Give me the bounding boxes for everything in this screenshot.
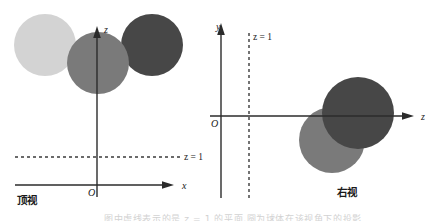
panel-right-view: y z O z = 1 右视 xyxy=(210,21,425,199)
panel-top-view: z x O z = 1 顶视 xyxy=(14,14,203,206)
top-view-caption: 顶视 xyxy=(17,194,38,206)
right-view-dark-circle xyxy=(322,77,394,149)
right-view-origin-label: O xyxy=(211,118,218,129)
footer-cropped-caption-text: 图中虚线表示的是 z = 1 的平面,圆为球体在该视角下的投影 xyxy=(104,213,362,221)
top-view-dark-circle xyxy=(121,14,183,76)
right-view-z-axis-label: z xyxy=(420,111,425,122)
top-view-x-axis-arrow xyxy=(162,181,174,189)
top-view-origin-label: O xyxy=(88,187,95,198)
figure-canvas: z x O z = 1 顶视 y z O z = 1 右视 xyxy=(0,0,440,221)
right-view-y-axis-label: y xyxy=(215,21,221,32)
right-view-caption: 右视 xyxy=(336,186,358,198)
right-view-z1-label: z = 1 xyxy=(253,32,272,42)
top-view-z-axis-arrow xyxy=(93,26,101,38)
top-view-light-circle xyxy=(14,14,76,76)
top-view-medium-circle xyxy=(67,32,129,94)
right-view-z-axis-arrow xyxy=(402,112,414,120)
top-view-z-axis-label: z xyxy=(103,24,108,35)
top-view-z1-label: z = 1 xyxy=(184,152,203,162)
two-view-projection-diagram: z x O z = 1 顶视 y z O z = 1 右视 xyxy=(0,0,440,221)
top-view-x-axis-label: x xyxy=(181,180,187,191)
footer-cropped-caption: 图中虚线表示的是 z = 1 的平面,圆为球体在该视角下的投影 xyxy=(0,213,440,221)
